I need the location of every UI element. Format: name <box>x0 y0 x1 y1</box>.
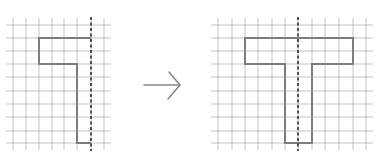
right-arrow-icon <box>144 72 180 99</box>
symmetry-diagram <box>0 0 383 166</box>
completed-t-shape-outline <box>245 38 353 143</box>
half-shape-outline <box>39 38 91 143</box>
